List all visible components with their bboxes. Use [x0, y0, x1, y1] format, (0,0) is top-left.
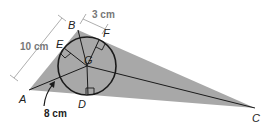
label-a: A — [18, 93, 26, 105]
label-d: D — [78, 98, 86, 110]
label-e: E — [56, 38, 64, 50]
measure-ag: 8 cm — [44, 108, 67, 119]
triangle-diagram: A B C D E F G 10 cm 3 cm 8 cm — [0, 0, 273, 130]
measure-line-bf — [83, 19, 105, 29]
label-b: B — [68, 19, 75, 31]
label-c: C — [252, 112, 260, 124]
label-g: G — [84, 54, 93, 66]
label-f: F — [103, 27, 111, 39]
measure-tick-ab-2 — [58, 15, 66, 21]
measure-tick-bf-1 — [80, 14, 86, 24]
measure-bf: 3 cm — [92, 9, 115, 20]
measure-tick-ab-1 — [10, 75, 18, 81]
measure-ab: 10 cm — [20, 41, 48, 52]
